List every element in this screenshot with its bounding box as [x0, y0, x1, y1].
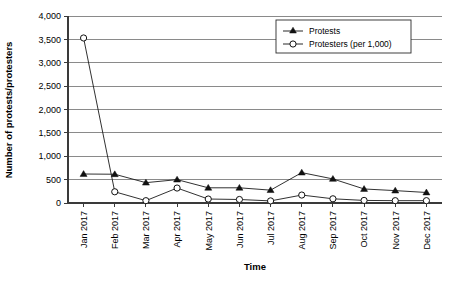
y-tick-label: 3,500	[38, 35, 61, 45]
line-chart: 05001,0001,5002,0002,5003,0003,5004,000 …	[0, 0, 449, 282]
data-point-circle	[267, 198, 273, 204]
y-tick-label: 3,000	[38, 58, 61, 68]
x-tick-label: Oct 2017	[359, 211, 369, 248]
x-tick-label: Aug 2017	[297, 211, 307, 250]
y-axis-title: Number of protests/protesters	[3, 42, 14, 179]
y-tick-label: 0	[56, 198, 61, 208]
x-tick-label: Jan 2017	[79, 211, 89, 248]
y-tick-label: 1,500	[38, 128, 61, 138]
x-tick-label: Jul 2017	[266, 211, 276, 245]
open-circle-icon	[290, 41, 296, 47]
x-tick-label: Sep 2017	[328, 211, 338, 250]
data-point-circle	[112, 189, 118, 195]
x-tick-label: Dec 2017	[422, 211, 432, 250]
x-tick-label: Mar 2017	[141, 211, 151, 249]
y-tick-label: 1,000	[38, 151, 61, 161]
data-point-circle	[330, 196, 336, 202]
chart-container: 05001,0001,5002,0002,5003,0003,5004,000 …	[0, 0, 449, 282]
data-point-circle	[236, 196, 242, 202]
data-point-circle	[80, 35, 86, 41]
x-tick-label: Apr 2017	[172, 211, 182, 248]
x-tick-label: May 2017	[204, 211, 214, 251]
y-tick-label: 2,000	[38, 105, 61, 115]
data-point-circle	[361, 197, 367, 203]
legend-label-protesters: Protesters (per 1,000)	[309, 39, 392, 49]
x-axis-title: Time	[244, 261, 266, 272]
chart-legend: Protests Protesters (per 1,000)	[276, 20, 411, 53]
data-point-circle	[423, 198, 429, 204]
data-point-circle	[299, 192, 305, 198]
y-tick-label: 2,500	[38, 81, 61, 91]
y-tick-label: 500	[46, 175, 61, 185]
data-point-circle	[174, 185, 180, 191]
x-tick-label: Feb 2017	[110, 211, 120, 249]
data-point-circle	[205, 196, 211, 202]
legend-label-protests: Protests	[309, 26, 340, 36]
x-tick-label: Jun 2017	[235, 211, 245, 248]
x-tick-label: Nov 2017	[391, 211, 401, 250]
data-point-circle	[143, 198, 149, 204]
y-tick-label: 4,000	[38, 11, 61, 21]
data-point-circle	[392, 198, 398, 204]
